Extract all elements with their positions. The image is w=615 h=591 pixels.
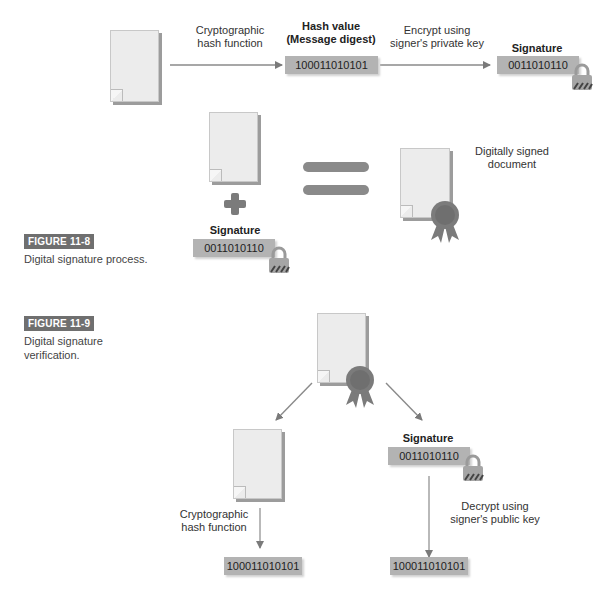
- combine-signature-title: Signature: [195, 224, 275, 237]
- hash-function-label: Cryptographic hash function: [175, 24, 285, 50]
- original-document-icon: [110, 30, 159, 102]
- signature-title: Signature: [497, 42, 577, 55]
- encrypt-label: Encrypt using signer's private key: [382, 24, 492, 50]
- signature-box: 0011010110: [497, 56, 579, 74]
- signature-title: Signature: [384, 432, 472, 445]
- figure-11-8-badge: FIGURE 11-8: [24, 234, 94, 249]
- decrypted-hash-box: 100011010101: [390, 557, 468, 575]
- document-icon: [209, 112, 258, 182]
- equals-icon: [303, 162, 369, 198]
- hash-value-box: 100011010101: [285, 56, 378, 74]
- hash-value-title: Hash value (Message digest): [283, 20, 379, 46]
- document-icon: [233, 429, 282, 499]
- combine-signature-box: 0011010110: [193, 239, 275, 257]
- lock-icon: [268, 246, 290, 274]
- seal-ribbon-icon: [428, 200, 462, 244]
- hash-function-label: Cryptographic hash function: [175, 508, 253, 534]
- plus-icon: [224, 193, 246, 215]
- figure-11-8-caption: Digital signature process.: [24, 252, 148, 266]
- digitally-signed-label: Digitally signed document: [462, 145, 562, 171]
- lock-icon: [462, 454, 484, 482]
- seal-ribbon-icon: [343, 365, 377, 409]
- figure-11-9-caption: Digital signature verification.: [24, 334, 103, 362]
- decrypt-label: Decrypt using signer's public key: [440, 500, 550, 526]
- signature-box: 0011010110: [388, 447, 470, 465]
- lock-icon: [571, 63, 593, 91]
- computed-hash-box: 100011010101: [224, 557, 302, 575]
- figure-11-9-badge: FIGURE 11-9: [24, 316, 94, 331]
